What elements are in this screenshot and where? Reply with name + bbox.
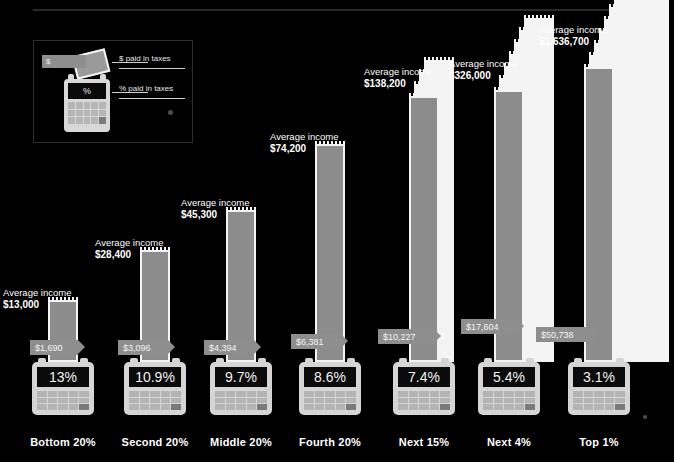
calculator: 13% [32,358,94,415]
tag-arrow-icon [168,340,175,354]
percent-value: 9.7% [215,367,267,387]
percent-display: 7.4% [398,367,450,387]
income-caption: Average income [181,197,301,209]
tax-paid-value: $10,227 [378,332,420,342]
percent-value: 13% [37,367,89,387]
receipt-bar [315,144,345,362]
calculator-keypad [129,391,181,410]
income-label: Average income$28,400 [95,237,215,261]
tag-arrow-icon [592,327,599,341]
legend-keypad [68,102,106,124]
tag-arrow-icon [517,319,524,333]
income-label: Average income$45,300 [181,197,301,221]
category-label: Bottom 20% [20,436,106,448]
receipt-bar [584,67,614,362]
decorative-dot [168,110,173,115]
receipt-perforation [409,93,439,98]
income-caption: Average income [449,58,569,70]
tag-arrow-icon [78,340,85,354]
tax-paid-tag: $17,604 [461,319,517,334]
receipt-perforation [524,15,554,20]
calculator: 10.9% [124,358,186,415]
tax-paid-value: $1,690 [30,343,67,353]
receipt-stack [409,96,439,362]
tax-paid-value: $6,381 [291,337,328,347]
legend-label-percent: % paid in taxes [119,84,173,93]
legend-dollar-symbol: $ [42,55,86,68]
top-divider [33,9,638,11]
calculator-keypad [37,391,89,410]
tax-paid-tag: $50,738 [536,327,592,342]
tag-arrow-icon [434,329,441,343]
receipt-perforation [494,87,524,92]
tax-paid-tag: $10,227 [378,329,434,344]
receipt-perforation [609,4,639,9]
category-label: Next 4% [466,436,552,448]
receipt-perforation [584,64,614,69]
percent-value: 8.6% [304,367,356,387]
income-label: Average income$74,200 [270,131,390,155]
tax-paid-tag: $6,381 [291,334,341,349]
legend-calculator-icon: % [64,74,110,132]
tax-paid-value: $17,604 [461,322,503,332]
percent-display: 5.4% [483,367,535,387]
calculator-keypad [215,391,267,410]
income-label: Average income$326,000 [449,58,569,82]
legend-underline-dollar [119,68,185,69]
income-caption: Average income [3,287,123,299]
calculator: 8.6% [299,358,361,415]
category-label: Fourth 20% [287,436,373,448]
income-label: Average income$1,636,700 [539,24,659,48]
category-label: Next 15% [381,436,467,448]
category-label: Middle 20% [198,436,284,448]
category-label: Top 1% [556,436,642,448]
decorative-dot [643,415,647,419]
tax-paid-value: $4,394 [204,343,241,353]
tax-paid-tag: $4,394 [204,340,254,355]
legend-percent-symbol: % [68,83,106,99]
category-label: Second 20% [112,436,198,448]
calculator-keypad [573,391,625,410]
legend-label-dollar: $ paid in taxes [119,54,171,63]
percent-value: 5.4% [483,367,535,387]
tag-arrow-icon [254,340,261,354]
income-value: $326,000 [449,70,569,82]
income-value: $74,200 [270,143,390,155]
income-value: $13,000 [3,299,123,311]
legend-dollar-tag: $ [42,55,86,68]
tax-paid-value: $50,738 [536,330,578,340]
income-caption: Average income [270,131,390,143]
percent-display: 3.1% [573,367,625,387]
percent-value: 10.9% [129,367,181,387]
legend-box: % $ $ paid in taxes % paid in taxes [33,40,193,143]
percent-value: 7.4% [398,367,450,387]
percent-value: 3.1% [573,367,625,387]
calculator-keypad [304,391,356,410]
percent-display: 8.6% [304,367,356,387]
income-label: Average income$13,000 [3,287,123,311]
tax-paid-tag: $1,690 [30,340,78,355]
legend-percent-screen: % [68,83,106,99]
receipt-stack [584,67,614,362]
percent-display: 9.7% [215,367,267,387]
income-caption: Average income [539,24,659,36]
receipt-stack [315,144,345,362]
receipt-perforation [589,52,619,57]
percent-display: 10.9% [129,367,181,387]
tag-arrow-icon [341,334,348,348]
income-value: $45,300 [181,209,301,221]
legend-underline-percent [119,98,185,99]
income-value: $1,636,700 [539,36,659,48]
tax-paid-tag: $3,096 [118,340,168,355]
income-value: $28,400 [95,249,215,261]
calculator: 9.7% [210,358,272,415]
income-caption: Average income [95,237,215,249]
calculator-keypad [483,391,535,410]
calculator-keypad [398,391,450,410]
receipt-bar [409,96,439,362]
percent-display: 13% [37,367,89,387]
chart-canvas: % $ $ paid in taxes % paid in taxes 13%B… [0,0,674,462]
receipt-perforation [509,51,539,56]
tax-paid-value: $3,096 [118,343,155,353]
calculator: 5.4% [478,358,540,415]
